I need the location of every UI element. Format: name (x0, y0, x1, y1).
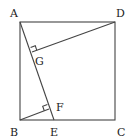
segment-dg (32, 22, 115, 52)
label-c: C (117, 126, 125, 139)
right-angle-mark-g (31, 46, 37, 51)
geometry-diagram: A D B E C F G (0, 0, 132, 139)
square-abcd (20, 22, 115, 120)
label-f: F (56, 101, 64, 114)
label-e: E (50, 126, 58, 139)
label-b: B (10, 126, 18, 139)
segment-ae (20, 22, 54, 120)
label-g: G (35, 55, 44, 68)
label-a: A (9, 7, 19, 20)
label-d: D (116, 7, 125, 20)
